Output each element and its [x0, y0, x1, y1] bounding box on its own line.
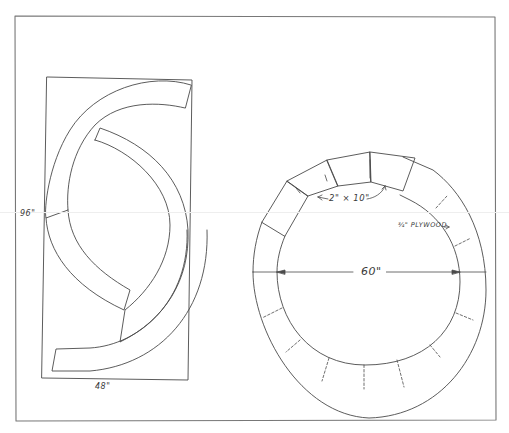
- outer-frame: [15, 16, 496, 421]
- frame-block-3: [327, 152, 371, 186]
- s-segment-middle: [95, 128, 188, 342]
- diagram-canvas: 96" 48" 2" × 10" ¾" PLYWOOD 60": [0, 0, 509, 433]
- frame-block-2: [287, 160, 338, 196]
- ring-left-join: [253, 222, 262, 272]
- frame-block-4: [370, 152, 415, 191]
- s-segment-bottom: [52, 230, 207, 371]
- frame-block-1: [262, 181, 308, 236]
- drawing-svg: [0, 0, 509, 433]
- diameter-label: 60": [357, 265, 386, 278]
- sheathing-label: ¾" PLYWOOD: [398, 221, 447, 229]
- frame-member-label: 2" × 10": [329, 193, 370, 203]
- scan-artifact-line: [0, 212, 509, 213]
- sheet-height-label: 96": [20, 209, 35, 218]
- sheet-width-label: 48": [95, 382, 110, 391]
- s-segment-lower-left: [46, 210, 130, 310]
- ring-left-join-inner: [277, 236, 285, 272]
